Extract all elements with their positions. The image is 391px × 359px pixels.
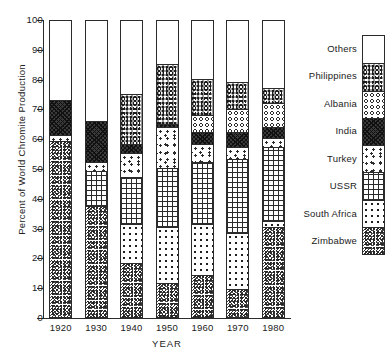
y-tick-label: 70: [11, 103, 43, 114]
bar-segment-ussr: [192, 163, 213, 225]
bar-segment-south-africa: [157, 228, 178, 284]
x-tick-label: 1950: [147, 322, 187, 333]
bar-1930: [85, 20, 108, 318]
y-tick-label: 50: [11, 163, 43, 174]
legend-label-south-africa: South Africa: [269, 208, 357, 219]
legend-swatch-philippines: [363, 63, 384, 90]
legend-label-others: Others: [269, 43, 357, 54]
bar-segment-south-africa: [192, 225, 213, 275]
bar-segment-albania: [192, 116, 213, 134]
legend-swatch-turkey: [363, 145, 384, 172]
y-tick-label: 10: [11, 282, 43, 293]
bar-segment-philippines: [121, 95, 142, 145]
y-tick-label: 80: [11, 74, 43, 85]
bar-segment-others: [192, 21, 213, 80]
x-tick-label: 1920: [41, 322, 81, 333]
bar-segment-zimbabwe: [227, 290, 248, 317]
legend-swatch-column: [362, 35, 385, 255]
legend-label-zimbabwe: Zimbabwe: [269, 235, 357, 246]
bar-segment-ussr: [121, 178, 142, 225]
legend-swatch-south-africa: [363, 200, 384, 227]
x-tick-label: 1980: [253, 322, 293, 333]
legend-swatch-others: [363, 36, 384, 63]
y-tick-label: 20: [11, 252, 43, 263]
bar-segment-india: [121, 145, 142, 154]
stacked-bar-chart: Percent of World Chromite Production 010…: [0, 0, 391, 359]
bar-segment-india: [86, 122, 107, 163]
bar-segment-india: [50, 101, 71, 137]
bar-segment-turkey: [86, 163, 107, 172]
legend-swatch-zimbabwe: [363, 227, 384, 254]
legend-label-turkey: Turkey: [269, 153, 357, 164]
bar-segment-others: [86, 21, 107, 122]
y-tick-label: 0: [11, 312, 43, 323]
bar-segment-philippines: [192, 80, 213, 116]
bar-segment-ussr: [86, 172, 107, 208]
y-tick-label: 90: [11, 44, 43, 55]
bar-1920: [49, 20, 72, 318]
bar-segment-india: [192, 133, 213, 145]
bar-segment-others: [121, 21, 142, 95]
bar-segment-south-africa: [227, 234, 248, 290]
bar-segment-zimbabwe: [192, 276, 213, 317]
bar-segment-turkey: [121, 154, 142, 178]
bar-segment-others: [50, 21, 71, 101]
legend-swatch-albania: [363, 91, 384, 118]
x-tick-label: 1940: [112, 322, 152, 333]
bar-segment-zimbabwe: [121, 264, 142, 317]
x-tick-label: 1960: [182, 322, 222, 333]
y-tick-label: 30: [11, 223, 43, 234]
legend-label-philippines: Philippines: [269, 70, 357, 81]
bar-1980: [262, 20, 285, 318]
legend-swatch-india: [363, 118, 384, 145]
legend: OthersPhilippinesAlbaniaIndiaTurkeyUSSRS…: [299, 35, 389, 257]
bar-segment-turkey: [227, 148, 248, 160]
bar-segment-south-africa: [121, 225, 142, 263]
bar-1960: [191, 20, 214, 318]
legend-label-albania: Albania: [269, 98, 357, 109]
legend-label-ussr: USSR: [269, 180, 357, 191]
y-tick-label: 100: [11, 14, 43, 25]
y-tick-label: 40: [11, 193, 43, 204]
legend-label-india: India: [269, 125, 357, 136]
y-axis-line: [43, 20, 44, 318]
x-tick-label: 1930: [76, 322, 116, 333]
y-axis-title: Percent of World Chromite Production: [16, 25, 27, 275]
bar-segment-turkey: [157, 128, 178, 169]
bar-segment-india: [227, 133, 248, 148]
bar-segment-ussr: [227, 160, 248, 234]
x-tick-label: 1970: [218, 322, 258, 333]
x-axis-title: YEAR: [43, 338, 291, 349]
x-axis-line: [43, 318, 291, 319]
y-tick-label: 60: [11, 133, 43, 144]
bar-1970: [226, 20, 249, 318]
bar-segment-turkey: [192, 145, 213, 163]
bar-segment-zimbabwe: [157, 284, 178, 317]
bar-segment-turkey: [263, 139, 284, 148]
bar-segment-albania: [227, 110, 248, 134]
bar-segment-philippines: [227, 83, 248, 110]
bar-segment-zimbabwe: [50, 142, 71, 317]
bar-segment-ussr: [157, 169, 178, 228]
legend-swatch-ussr: [363, 172, 384, 199]
bar-segment-zimbabwe: [86, 207, 107, 317]
bar-segment-philippines: [157, 65, 178, 124]
bar-segment-others: [227, 21, 248, 83]
bar-segment-others: [157, 21, 178, 65]
bar-1940: [120, 20, 143, 318]
bar-1950: [156, 20, 179, 318]
